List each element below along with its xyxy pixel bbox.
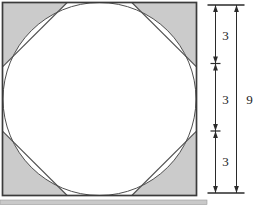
arrow-down-icon [213,124,218,131]
arrow-up-icon [213,131,218,138]
arrow-down-icon [213,186,218,193]
arrow-up-icon [213,5,218,12]
arrow-up-icon [234,5,239,12]
segment-label-2: 3 [222,92,229,107]
arrow-down-icon [213,57,218,64]
inscribed-circle [3,3,196,196]
scan-artifact-strip [0,200,207,205]
figure-canvas: 3 3 3 9 [0,0,256,205]
segment-label-3: 3 [222,154,229,169]
dimension-annotation: 3 3 3 9 [208,5,253,193]
arrow-up-icon [213,64,218,71]
segment-label-1: 3 [222,28,229,43]
geometry-diagram: 3 3 3 9 [0,0,256,205]
arrow-down-icon [234,186,239,193]
total-label: 9 [246,92,253,107]
